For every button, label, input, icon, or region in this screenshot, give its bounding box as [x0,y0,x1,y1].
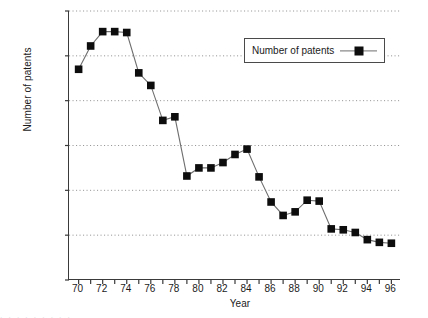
data-point-marker [267,198,275,206]
data-point-marker [183,172,191,180]
x-tick-label: 78 [168,283,179,294]
series-line [79,32,392,244]
x-tick-label: 92 [337,283,348,294]
data-point-marker [123,29,131,37]
x-tick-label: 80 [192,283,203,294]
legend-square-marker-icon [354,46,363,55]
data-point-marker [279,212,287,220]
data-point-marker [111,28,119,36]
data-point-marker [147,82,155,90]
x-tick-label: 86 [265,283,276,294]
data-point-marker [99,28,107,36]
legend-marker-sample [340,45,377,57]
caption-remnant: . . . . . . . . . [0,311,428,318]
data-point-marker [351,229,359,237]
x-tick-label: 90 [313,283,324,294]
data-point-marker [75,65,83,73]
x-tick-label: 72 [96,283,107,294]
data-point-marker [207,164,215,172]
data-point-marker [291,208,299,216]
data-point-marker [243,145,251,153]
data-point-marker [159,117,167,125]
patents-by-year-chart: Number of patents 35,000 30,000 25,000 2… [0,0,428,318]
x-tick-label: 84 [240,283,251,294]
x-axis-title: Year [80,298,400,309]
data-point-marker [303,196,311,204]
data-point-marker [195,164,203,172]
chart-legend: Number of patents [244,38,385,63]
data-point-marker [376,239,384,247]
x-tick-label: 94 [361,283,372,294]
data-point-marker [255,173,263,181]
x-tick-label: 76 [144,283,155,294]
x-tick-label: 82 [216,283,227,294]
data-point-marker [388,239,396,247]
data-point-marker [364,236,372,244]
data-point-marker [135,69,143,77]
x-tick-label: 96 [385,283,396,294]
data-point-marker [87,42,95,50]
x-tick-label: 74 [120,283,131,294]
legend-entry-label: Number of patents [252,45,334,56]
data-point-marker [219,159,227,167]
data-point-marker [315,197,323,205]
x-tick-label: 88 [289,283,300,294]
x-tick-label: 70 [72,283,83,294]
data-point-marker [171,113,179,121]
data-point-marker [327,225,335,233]
data-point-marker [339,226,347,234]
data-point-marker [231,151,239,159]
